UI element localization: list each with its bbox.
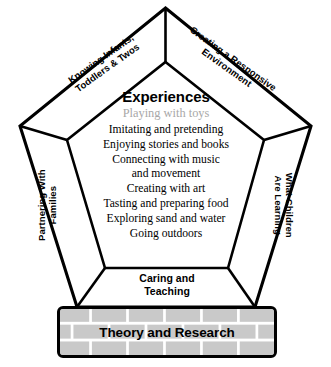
band-line-2: Families [47, 186, 58, 224]
band-label-what-children-are-learning: What Children Are Learning [273, 143, 295, 267]
band-line-2: Are Learning [273, 176, 284, 235]
experience-item-enjoying-stories-and-books: Enjoying stories and books [70, 138, 262, 152]
experience-item-label: Exploring sand and water [107, 212, 226, 225]
experience-item-playing-with-toys: Playing with toys [70, 107, 262, 121]
experience-item-going-outdoors: Going outdoors [70, 227, 262, 241]
experience-item-label: Connecting with music [112, 153, 220, 166]
experience-item-imitating-and-pretending: Imitating and pretending [70, 123, 262, 137]
experience-item-label: Going outdoors [130, 227, 202, 240]
band-label-caring-and-teaching: Caring and Teaching [105, 272, 229, 297]
experience-item-tasting-and-preparing-food: Tasting and preparing food [70, 197, 262, 211]
band-line-1: Partnering With [36, 170, 47, 241]
experience-item-label: Creating with art [127, 182, 206, 195]
band-line-2: Teaching [144, 285, 190, 297]
experience-item-label-line2: and movement [70, 167, 262, 181]
band-label-partnering-with-families: Partnering With Families [36, 143, 58, 267]
experience-item-connecting-with-music-and-movement: Connecting with music and movement [70, 153, 262, 180]
theory-and-research-label: Theory and Research [95, 325, 238, 340]
band-line-1: What Children [284, 173, 295, 238]
band-line-1: Caring and [139, 272, 194, 284]
experience-item-label: Imitating and pretending [109, 123, 224, 136]
experiences-heading: Experiences [70, 88, 262, 105]
experience-item-exploring-sand-and-water: Exploring sand and water [70, 212, 262, 226]
base-label-wrapper: Theory and Research [60, 309, 274, 355]
diagram-canvas: Knowing Infants, Toddlers & Twos Creatin… [0, 0, 331, 367]
experience-item-label: Enjoying stories and books [103, 138, 229, 151]
experience-item-label: Playing with toys [123, 106, 210, 120]
theory-and-research-base: Theory and Research [57, 306, 277, 358]
experience-item-creating-with-art: Creating with art [70, 182, 262, 196]
experiences-panel: Experiences Playing with toys Imitating … [70, 88, 262, 242]
experience-item-label: Tasting and preparing food [103, 197, 228, 210]
